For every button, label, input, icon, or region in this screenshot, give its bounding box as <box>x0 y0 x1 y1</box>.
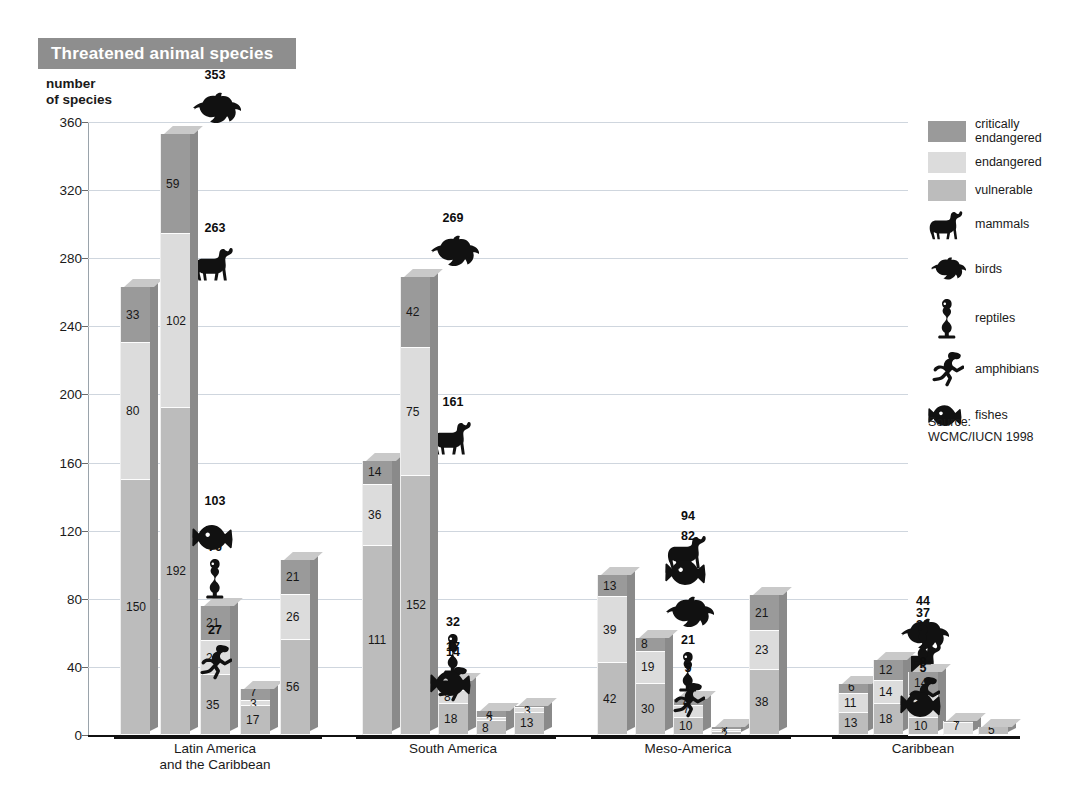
segment-value-label: 2 <box>716 728 728 742</box>
bar-total-label: 17 <box>353 640 553 654</box>
legend-label: amphibians <box>966 363 1039 377</box>
legend-item-e[interactable]: endangered <box>928 152 1078 173</box>
group-baseline <box>832 736 1020 739</box>
legend-label: vulnerable <box>966 184 1033 198</box>
y-axis-tick-label: 80 <box>36 591 82 606</box>
bar-segment: 35 <box>201 675 230 735</box>
bird-icon <box>928 252 966 288</box>
bar-segment: 23 <box>750 631 779 670</box>
legend-item-reptiles[interactable]: reptiles <box>928 298 1078 340</box>
segment-value-label: 14 <box>363 465 381 479</box>
segment-value-label: 13 <box>515 716 533 730</box>
reptile-icon <box>928 298 966 340</box>
legend-label: mammals <box>966 218 1029 232</box>
mammal-icon <box>100 239 330 281</box>
bar-stack: 17 <box>943 721 973 735</box>
bar-fishes[interactable]: 5 <box>978 727 1008 736</box>
bird-icon <box>100 86 330 128</box>
bar-segment: 5 <box>979 727 1008 736</box>
legend-swatch <box>928 180 966 201</box>
bar-segment: 75 <box>401 348 430 476</box>
bar-segment: 10 <box>909 718 938 735</box>
fish-icon <box>100 512 330 554</box>
segment-value-label: 80 <box>121 404 139 418</box>
bar-fishes[interactable]: 212338 <box>749 595 779 735</box>
x-axis-group-label-line1: South America <box>353 741 553 757</box>
segment-value-label: 18 <box>439 712 457 726</box>
legend-item-birds[interactable]: birds <box>928 252 1078 288</box>
bar-segment: 21 <box>750 595 779 631</box>
y-axis-tick-label: 0 <box>36 728 82 743</box>
bar-segment: 10 <box>674 718 703 735</box>
bar-stack: 212656 <box>280 560 310 735</box>
bar-segment: 17 <box>241 706 270 735</box>
segment-value-label: 21 <box>281 570 299 584</box>
x-axis-group-label: Meso-America <box>588 741 788 757</box>
x-axis-group-label: Caribbean <box>828 741 1018 757</box>
bar-total-label: 103 <box>100 494 330 508</box>
y-axis-tick-label: 240 <box>36 319 82 334</box>
bar-segment: 42 <box>401 277 430 349</box>
mammal-icon <box>353 413 553 455</box>
bar-segment: 26 <box>281 595 310 639</box>
legend-swatch <box>928 152 966 173</box>
segment-value-label: 152 <box>401 598 426 612</box>
segment-value-label: 102 <box>161 314 186 328</box>
bar-segment: 59 <box>161 134 190 234</box>
segment-value-label: 17 <box>241 713 259 727</box>
bar-segment: 2 <box>712 732 741 735</box>
x-axis-group-label: Latin Americaand the Caribbean <box>100 741 330 772</box>
y-axis-tick-label: 200 <box>36 387 82 402</box>
bar-segment: 36 <box>363 485 392 546</box>
fish-icon <box>353 658 553 700</box>
bar-fishes[interactable]: 1313 <box>514 706 544 735</box>
bar-stack: 212338 <box>749 595 779 735</box>
bar-total-label: 37 <box>828 606 1018 620</box>
bar-segment: 38 <box>750 670 779 735</box>
segment-value-label: 35 <box>201 698 219 712</box>
y-axis-tick-label: 40 <box>36 659 82 674</box>
legend-item-mammals[interactable]: mammals <box>928 208 1078 242</box>
segment-value-label: 59 <box>161 177 179 191</box>
bar-segment: 7 <box>944 723 973 735</box>
segment-value-label: 8 <box>477 721 489 735</box>
bar-stack: 1313 <box>514 706 544 735</box>
source-note: Source: WCMC/IUCN 1998 <box>928 415 1034 445</box>
bar-amphibians[interactable]: 428 <box>476 711 506 735</box>
chart-title-bar: Threatened animal species <box>38 38 296 69</box>
bar-stack: 212 <box>711 727 741 736</box>
bar-total-label: 5 <box>828 661 1018 675</box>
bar-group: 1436111161427515226968183242814131317Sou… <box>353 122 553 735</box>
segment-value-label: 75 <box>401 405 419 419</box>
bar-total-label: 32 <box>353 615 553 629</box>
bar-segment: 13 <box>515 713 544 735</box>
group-baseline <box>591 736 791 739</box>
segment-value-label: 23 <box>750 643 768 657</box>
segment-value-label: 21 <box>750 606 768 620</box>
y-axis-tick-labels: 36032028024020016012080400 <box>30 122 82 735</box>
legend-item-v[interactable]: vulnerable <box>928 180 1078 201</box>
segment-value-label: 38 <box>750 695 768 709</box>
bar-total-label: 269 <box>353 211 553 225</box>
segment-value-label: 42 <box>401 305 419 319</box>
segment-value-label: 7 <box>948 719 960 733</box>
bar-segment: 56 <box>281 640 310 735</box>
x-axis-group-label-line1: Caribbean <box>828 741 1018 757</box>
segment-value-label: 56 <box>281 680 299 694</box>
legend-swatch <box>928 121 966 142</box>
bar-amphibians[interactable]: 212 <box>711 727 741 736</box>
legend-item-c[interactable]: criticallyendangered <box>928 118 1078 145</box>
bar-amphibians[interactable]: 7317 <box>240 689 270 735</box>
legend-item-amphibians[interactable]: amphibians <box>928 350 1078 390</box>
bar-side-face <box>779 587 787 731</box>
segment-value-label: 10 <box>674 719 692 733</box>
bar-amphibians[interactable]: 17 <box>943 721 973 735</box>
bar-fishes[interactable]: 212656 <box>280 560 310 735</box>
bar-segment: 8 <box>477 721 506 735</box>
segment-value-label: 150 <box>121 600 146 614</box>
segment-value-label: 33 <box>121 308 139 322</box>
bar-total-label: 94 <box>588 509 788 523</box>
bar-group: 3380150263591021923532120357673172721265… <box>100 122 330 735</box>
bird-icon <box>353 229 553 271</box>
legend: criticallyendangeredendangeredvulnerable… <box>928 118 1078 442</box>
